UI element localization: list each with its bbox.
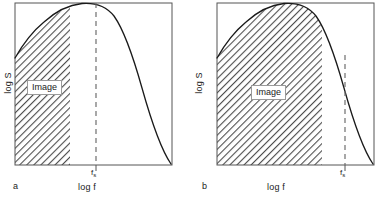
- x-axis-label-a: log f: [78, 182, 96, 192]
- panel-b: Image log S log f fs b: [189, 0, 378, 200]
- panel-a: Image log S log f fs a: [0, 0, 189, 200]
- panel-b-plot: [189, 0, 378, 200]
- x-tick-label-fs-b-sub: s: [342, 172, 345, 178]
- image-band-label-b: Image: [251, 85, 286, 100]
- panel-letter-a: a: [13, 181, 18, 191]
- x-tick-label-fs-b: fs: [340, 168, 345, 177]
- panel-letter-b: b: [202, 181, 207, 191]
- image-band-label-a: Image: [27, 80, 62, 95]
- y-axis-label-b: log S: [194, 55, 204, 111]
- y-axis-label-a: log S: [3, 55, 13, 111]
- x-tick-label-fs-a-sub: s: [93, 172, 96, 178]
- x-axis-label-b: log f: [267, 182, 285, 192]
- figure-root: Image log S log f fs a: [0, 0, 378, 200]
- x-tick-label-fs-a: fs: [91, 168, 96, 177]
